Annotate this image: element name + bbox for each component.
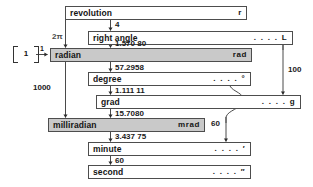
angle-unit-conversion-diagram: revolution r right angle . . . . L radia… (0, 0, 313, 187)
unit-name-grad: grad (101, 98, 120, 107)
factor-grad-to-milliradian: 15.7080 (115, 110, 144, 118)
unit-box-minute[interactable]: minute . . . . ′ (88, 142, 251, 156)
connector-lines (0, 0, 313, 187)
unit-symbol-revolution: r (238, 9, 242, 17)
factor-radian-to-milliradian: 1000 (33, 84, 51, 92)
factor-degree-to-minute: 60 (211, 120, 220, 128)
unit-name-revolution: revolution (70, 9, 112, 18)
unit-box-radian[interactable]: radian rad (50, 48, 252, 62)
unit-box-milliradian[interactable]: milliradian mrad (48, 118, 205, 132)
factor-rev-to-radian: 2π (52, 33, 63, 41)
unit-box-revolution[interactable]: revolution r (65, 6, 247, 20)
unit-name-radian: radian (55, 51, 81, 60)
unit-symbol-right-angle: . . . . L (254, 34, 288, 42)
factor-minute-to-second: 60 (115, 157, 124, 165)
unit-symbol-milliradian: mrad (178, 121, 200, 129)
bracket-value: 1 (13, 50, 39, 58)
factor-radian-input: 1 (40, 45, 44, 52)
unit-box-grad[interactable]: grad . . . . g (96, 95, 301, 109)
factor-milliradian-to-minute: 3.437 75 (115, 133, 146, 141)
unit-box-second[interactable]: second . . . . ″ (88, 165, 251, 179)
unit-symbol-minute: . . . . ′ (215, 145, 246, 153)
unit-symbol-second: . . . . ″ (213, 168, 246, 176)
factor-rev-to-right-angle: 4 (115, 21, 119, 29)
unit-symbol-degree: . . . . ° (213, 75, 246, 83)
unit-box-degree[interactable]: degree . . . . ° (88, 72, 251, 86)
unit-symbol-radian: rad (233, 51, 247, 59)
unity-bracket: 1 (13, 46, 39, 63)
unit-name-minute: minute (93, 145, 121, 154)
factor-right-angle-to-grad: 100 (288, 66, 301, 74)
unit-symbol-grad: . . . . g (262, 98, 296, 106)
unit-name-milliradian: milliradian (53, 121, 97, 130)
factor-radian-to-degree: 57.2958 (115, 64, 144, 72)
factor-right-angle-to-radian: 1.570 80 (115, 40, 146, 48)
factor-degree-to-grad: 1.111 11 (115, 87, 145, 95)
unit-name-degree: degree (93, 75, 121, 84)
unit-name-second: second (93, 168, 123, 177)
